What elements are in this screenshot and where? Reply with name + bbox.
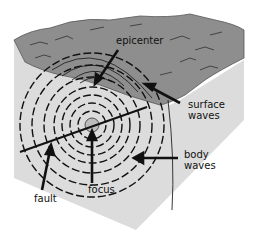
label-surface-waves-1: surface <box>188 100 225 110</box>
label-body-waves-2: waves <box>184 161 216 171</box>
label-surface-waves-2: waves <box>188 111 220 121</box>
label-focus: focus <box>88 185 115 195</box>
label-fault: fault <box>34 194 57 204</box>
label-epicenter: epicenter <box>116 36 163 46</box>
earthquake-diagram: epicenter surface waves body waves focus… <box>0 0 272 238</box>
label-body-waves-1: body <box>184 150 209 160</box>
